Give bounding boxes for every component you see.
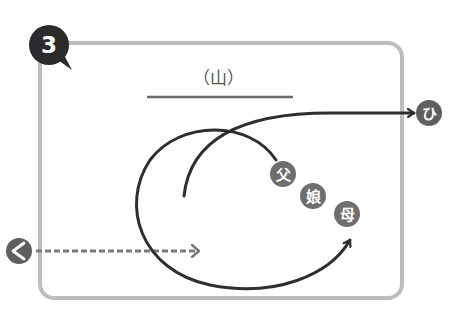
mother-label: 母 (340, 206, 355, 224)
title-text: （山） (193, 68, 244, 88)
exit-right-circle: ひ (416, 100, 442, 126)
step-badge: 3 (29, 25, 72, 70)
daughter-circle: 娘 (300, 183, 326, 209)
exit-right-label: ひ (422, 105, 437, 123)
daughter-label: 娘 (306, 188, 322, 206)
father-label: 父 (275, 166, 292, 184)
left-circle (6, 238, 32, 264)
step-number: 3 (41, 32, 57, 58)
father-circle: 父 (270, 161, 296, 187)
mother-circle: 母 (334, 201, 360, 227)
diagram-canvas: 3 （山） ひ 父 娘 母 (0, 0, 452, 314)
